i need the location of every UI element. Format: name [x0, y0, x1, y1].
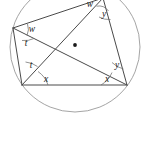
diagonal-top-to-bottom-left [22, 0, 103, 85]
quadrilateral-diagonals [13, 0, 127, 85]
angle-label-x-bottom-right: x [104, 74, 110, 84]
angle-label-t-left: t [25, 38, 28, 48]
angle-label-w-left: w [29, 24, 36, 34]
side-top-to-bottom-right [103, 0, 127, 85]
angle-label-y-top: y [101, 9, 107, 19]
angle-label-y-bottom-right: y [114, 60, 120, 70]
angle-label-w-top: w [87, 0, 94, 9]
angle-label-t-bottom-left: t [30, 60, 33, 70]
angle-labels: w y w t t x y x [25, 0, 120, 84]
geometry-diagram: w y w t t x y x [0, 0, 146, 162]
angle-label-x-bottom-left: x [43, 74, 49, 84]
quadrilateral-sides [13, 0, 127, 85]
diagonal-intersection-point [73, 43, 77, 47]
circumcircle [10, 0, 140, 112]
geometry-canvas: w y w t t x y x [0, 0, 146, 162]
